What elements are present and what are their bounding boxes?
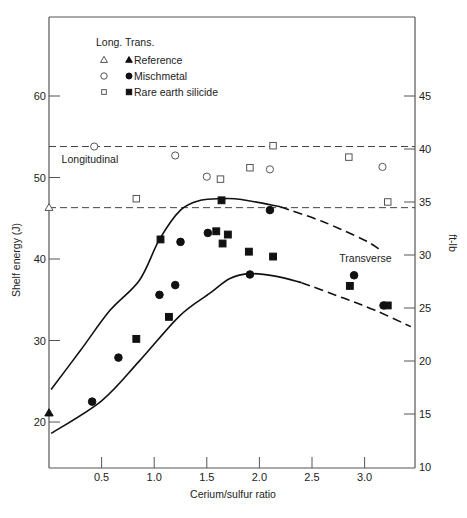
legend-label: Mischmetal <box>134 70 187 82</box>
circle-marker <box>88 398 96 406</box>
triangle-marker <box>45 409 53 416</box>
x-tick-label: 2.0 <box>252 471 267 483</box>
y-tick-label: 50 <box>34 172 46 184</box>
curve-solid <box>51 274 301 434</box>
circle-marker <box>266 206 274 214</box>
legend-long-marker-icon <box>100 56 107 62</box>
y-axis-ticks: 2030405060 <box>34 90 60 428</box>
x-axis-label: Cerium/sulfur ratio <box>190 488 276 500</box>
legend-trans-marker-icon <box>126 57 133 63</box>
square-marker <box>224 231 231 238</box>
y-axis-label: Shelf energy (J) <box>10 223 22 297</box>
legend-long-marker-icon <box>101 73 107 79</box>
y2-tick-label: 15 <box>419 408 431 420</box>
x-tick-label: 1.0 <box>147 471 162 483</box>
square-marker <box>346 282 353 289</box>
square-marker <box>218 197 225 204</box>
circle-marker <box>171 281 179 289</box>
y2-tick-label: 25 <box>419 302 431 314</box>
y2-tick-label: 35 <box>419 196 431 208</box>
curve-dashed <box>280 207 380 250</box>
circle-marker <box>379 163 386 170</box>
x-tick-label: 3.0 <box>357 471 372 483</box>
legend-trans-marker-icon <box>126 73 132 79</box>
x-axis-ticks: 0.51.01.52.02.53.0 <box>94 457 372 483</box>
square-marker <box>157 236 164 243</box>
y2-axis-ticks: 1015202530354045 <box>404 90 431 473</box>
curve-dashed <box>301 283 410 327</box>
circle-marker <box>115 354 123 362</box>
y-tick-label: 20 <box>34 416 46 428</box>
data-points <box>45 142 391 415</box>
legend-long-marker-icon <box>102 90 107 95</box>
circle-marker <box>350 272 358 280</box>
circle-marker <box>91 143 98 150</box>
square-marker <box>384 302 391 309</box>
y2-tick-label: 30 <box>419 249 431 261</box>
square-marker <box>247 164 253 170</box>
curve-solid <box>51 199 280 390</box>
square-marker <box>166 313 173 320</box>
y-tick-label: 30 <box>34 335 46 347</box>
y2-tick-label: 45 <box>419 90 431 102</box>
circle-marker <box>172 152 179 159</box>
square-marker <box>217 176 223 182</box>
square-marker <box>219 240 226 247</box>
annotations: LongitudinalTransverse <box>62 153 392 264</box>
y-tick-label: 40 <box>34 253 46 265</box>
square-marker <box>346 154 352 160</box>
circle-marker <box>246 271 254 279</box>
square-marker <box>385 199 391 205</box>
annotation-transverse: Transverse <box>339 252 391 264</box>
legend: Long. Trans. ReferenceMischmetalRare ear… <box>96 36 218 98</box>
chart-canvas: 0.51.01.52.02.53.0 2030405060 1015202530… <box>0 0 467 518</box>
square-marker <box>245 248 252 255</box>
legend-label: Reference <box>134 54 183 66</box>
square-marker <box>213 228 220 235</box>
y2-tick-label: 40 <box>419 143 431 155</box>
circle-marker <box>204 229 212 237</box>
annotation-longitudinal: Longitudinal <box>62 153 119 165</box>
legend-label: Rare earth silicide <box>134 86 218 98</box>
square-marker <box>133 195 139 201</box>
legend-header: Long. Trans. <box>96 36 154 48</box>
circle-marker <box>156 291 164 299</box>
x-tick-label: 0.5 <box>94 471 109 483</box>
square-marker <box>270 142 276 148</box>
y-tick-label: 60 <box>34 90 46 102</box>
square-marker <box>133 335 140 342</box>
circle-marker <box>266 166 273 173</box>
plot-frame <box>49 17 415 468</box>
x-tick-label: 1.5 <box>199 471 214 483</box>
y2-axis-label: ft-lb <box>447 234 459 252</box>
legend-trans-marker-icon <box>126 89 131 94</box>
square-marker <box>270 253 277 260</box>
y2-tick-label: 10 <box>419 461 431 473</box>
circle-marker <box>177 238 185 246</box>
circle-marker <box>203 173 210 180</box>
y2-tick-label: 20 <box>419 355 431 367</box>
x-tick-label: 2.5 <box>304 471 319 483</box>
triangle-marker <box>45 204 53 211</box>
